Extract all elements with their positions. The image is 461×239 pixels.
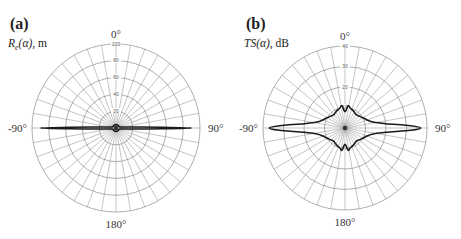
radial-tick-label: 20	[113, 108, 119, 114]
polar-plot-b: 102030400°180°-90°90°	[230, 0, 460, 239]
radial-tick-label: 30	[342, 63, 348, 69]
angle-label-90: 90°	[435, 122, 450, 134]
polar-plot-a: 204060801000°180°-90°90°	[0, 0, 230, 239]
angle-label-0: 0°	[111, 28, 121, 40]
angle-label-90: 90°	[208, 122, 223, 134]
polar-chart-b: (b) TS(α), dB 102030400°180°-90°90°	[230, 0, 460, 239]
radial-tick-label: 40	[113, 91, 119, 97]
angle-label-0: 0°	[340, 30, 350, 42]
angle-label-minus90: -90°	[239, 122, 258, 134]
radial-tick-label: 20	[342, 84, 348, 90]
center-point	[343, 126, 347, 130]
radial-tick-label: 40	[342, 43, 348, 49]
angle-label-minus90: -90°	[8, 122, 27, 134]
radial-tick-label: 100	[112, 41, 121, 47]
angle-label-180: 180°	[106, 218, 127, 230]
radial-tick-label: 60	[113, 74, 119, 80]
radial-tick-label: 80	[113, 57, 119, 63]
angle-label-180: 180°	[335, 216, 356, 228]
polar-chart-a: (a) Re(α), m 204060801000°180°-90°90°	[0, 0, 230, 239]
center-point	[114, 126, 118, 130]
